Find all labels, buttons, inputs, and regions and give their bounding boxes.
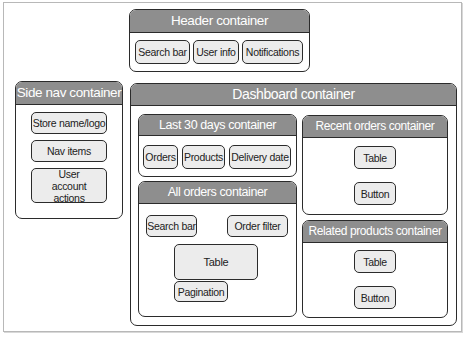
- last-30-days-delivery-date: Delivery date: [229, 145, 291, 169]
- all-orders-table: Table: [174, 244, 258, 280]
- header-search-bar: Search bar: [135, 40, 190, 64]
- recent-orders-button: Button: [354, 182, 396, 205]
- all-orders-order-filter: Order filter: [227, 215, 288, 237]
- all-orders-search-bar: Search bar: [146, 215, 197, 237]
- recent-orders-container-title: Recent orders container: [303, 116, 447, 138]
- related-products-table: Table: [354, 250, 396, 273]
- side-nav-user-account-actions: User account actions: [31, 168, 107, 203]
- side-nav-store-logo: Store name/logo: [31, 112, 107, 134]
- related-products-button: Button: [354, 286, 396, 309]
- all-orders-pagination: Pagination: [174, 281, 228, 302]
- last-30-days-products: Products: [182, 145, 225, 169]
- recent-orders-table: Table: [354, 146, 396, 169]
- all-orders-container-title: All orders container: [139, 182, 296, 204]
- header-user-info: User info: [193, 40, 239, 64]
- last-30-days-container-title: Last 30 days container: [139, 115, 296, 136]
- related-products-container-title: Related products container: [303, 221, 447, 243]
- last-30-days-orders: Orders: [143, 145, 178, 169]
- header-container-title: Header container: [130, 10, 309, 33]
- side-nav-container-title: Side nav container: [16, 82, 122, 105]
- dashboard-container-title: Dashboard container: [131, 84, 456, 106]
- header-notifications: Notifications: [242, 40, 303, 64]
- side-nav-nav-items: Nav items: [31, 140, 107, 162]
